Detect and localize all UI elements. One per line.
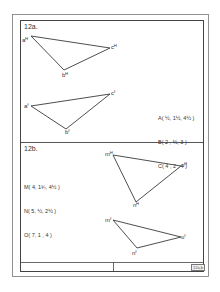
problem-12a-title: 12a. [24,24,38,30]
vertex-label-a-h: aᴴ [22,37,28,43]
vertex-label-m-f: mᶠ [105,217,111,223]
coord-o: O( 7, 1 , 4 ) [24,231,60,239]
triangle-abc-horizontal [31,36,110,70]
vertex-label-o-f: oᶠ [181,234,186,240]
vertex-label-b-h: bᴴ [62,72,68,78]
vertex-label-c-f: cᶠ [111,90,115,96]
triangle-mno-frontal [113,220,181,248]
drawing-sheet: 12a. aᴴ bᴴ cᴴ aᶠ bᶠ cᶠ A( ½, 1½, 4½ ) B(… [0,0,220,292]
coordinates-12b: M( 4, 1¾, 4½ ) N( 5, ½, 2½ ) O( 7, 1 , 4… [24,167,60,255]
coord-m: M( 4, 1¾, 4½ ) [24,183,60,191]
vertex-label-o-h: oᴴ [181,162,187,168]
coord-b: B( 2 , ½, 3 ) [158,138,194,146]
coord-n: N( 5, ½, 2½ ) [24,207,60,215]
vertex-label-n-h: nᴴ [133,202,139,208]
vertex-label-c-h: cᴴ [111,44,117,50]
plate-number: 12a,b [191,264,205,271]
coordinates-12a: A( ½, 1½, 4½ ) B( 2 , ½, 3 ) C( 4 , 2 , … [158,98,194,186]
vertex-label-b-f: bᶠ [65,129,70,135]
vertex-label-n-f: nᶠ [132,250,137,256]
coord-a: A( ½, 1½, 4½ ) [158,114,194,122]
triangle-abc-frontal [31,94,110,129]
vertex-label-a-f: aᶠ [24,103,29,109]
problem-12b-title: 12b. [24,146,38,152]
vertex-label-m-h: mᴴ [105,151,113,157]
coord-c: C( 4 , 2 , 4 ) [158,162,194,170]
